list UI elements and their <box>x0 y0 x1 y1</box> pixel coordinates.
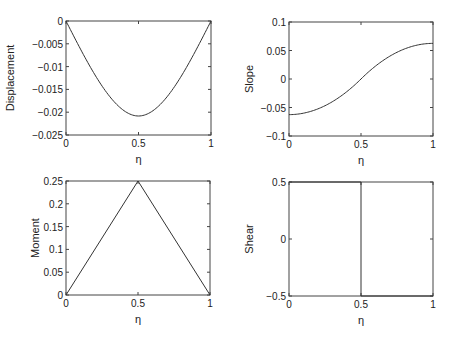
y-tick-label: −0.005 <box>32 39 63 50</box>
y-tick-label: 0 <box>57 16 63 27</box>
y-tick-label: −0.015 <box>32 84 63 95</box>
y-tick-label: 0.25 <box>44 176 64 187</box>
y-tick-label: −0.02 <box>38 107 64 118</box>
x-tick-label: 1 <box>207 298 213 309</box>
shear-curve <box>289 182 433 296</box>
y-tick-label: −0.01 <box>38 62 64 73</box>
y-tick-label: 0 <box>57 290 63 301</box>
subplot-shear: 00.510.50−0.5ηShear <box>243 177 436 326</box>
y-tick-label: −0.5 <box>266 291 286 302</box>
y-axis-label: Moment <box>29 218 41 258</box>
subplot-moment: 00.510.250.20.150.10.050ηMoment <box>29 176 213 325</box>
subplot-displacement: 00.510−0.005−0.01−0.015−0.02−0.025ηDispl… <box>4 16 214 165</box>
y-axis-label: Slope <box>243 65 255 93</box>
moment-curve <box>66 181 210 295</box>
subplot-slope: 00.510.10.050−0.05−0.1ηSlope <box>243 17 436 166</box>
x-tick-label: 1 <box>430 139 436 150</box>
axes-frame <box>66 21 211 135</box>
displacement-curve <box>66 21 211 116</box>
y-tick-label: −0.05 <box>261 103 287 114</box>
y-tick-label: −0.1 <box>266 131 286 142</box>
figure: 00.510−0.005−0.01−0.015−0.02−0.025ηDispl… <box>0 0 450 341</box>
x-tick-label: 0 <box>63 138 69 149</box>
x-tick-label: 0 <box>286 299 292 310</box>
x-tick-label: 0.5 <box>132 138 146 149</box>
x-tick-label: 1 <box>430 299 436 310</box>
x-tick-label: 0 <box>63 298 69 309</box>
slope-curve <box>289 43 433 114</box>
y-axis-label: Shear <box>243 224 255 254</box>
y-tick-label: 0.1 <box>272 17 286 28</box>
y-axis-label: Displacement <box>4 45 16 112</box>
y-tick-label: 0 <box>280 234 286 245</box>
x-tick-label: 0.5 <box>131 298 145 309</box>
x-axis-label: η <box>135 153 141 165</box>
x-tick-label: 1 <box>208 138 214 149</box>
x-tick-label: 0.5 <box>354 299 368 310</box>
x-tick-label: 0 <box>286 139 292 150</box>
x-axis-label: η <box>358 154 364 166</box>
y-tick-label: 0.5 <box>272 177 286 188</box>
y-tick-label: −0.025 <box>32 130 63 141</box>
y-tick-label: 0.1 <box>49 244 63 255</box>
y-tick-label: 0 <box>280 74 286 85</box>
x-axis-label: η <box>135 313 141 325</box>
y-tick-label: 0.15 <box>44 222 64 233</box>
y-tick-label: 0.2 <box>49 199 63 210</box>
y-tick-label: 0.05 <box>267 46 287 57</box>
y-tick-label: 0.05 <box>44 267 64 278</box>
x-axis-label: η <box>358 314 364 326</box>
x-tick-label: 0.5 <box>354 139 368 150</box>
axes-frame <box>66 181 210 295</box>
